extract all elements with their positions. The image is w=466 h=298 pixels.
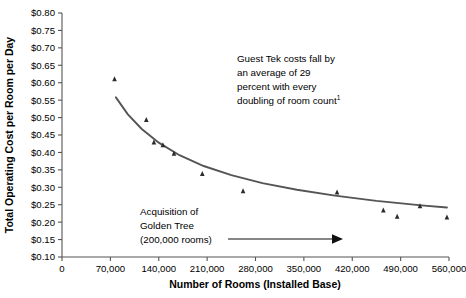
acquisition-line-1: Acquisition of [140,206,199,217]
y-tick-label: $0.10 [31,251,55,262]
y-axis-ticks: $0.10$0.15$0.20$0.25$0.30$0.35$0.40$0.45… [31,7,62,262]
acquisition-line-2: Golden Tree [140,220,194,231]
acquisition-arrow-head [332,234,343,244]
x-axis-ticks: 070,000140,000210,000280,000350,000420,0… [59,257,466,274]
chart-svg: Total Operating Cost per Room per Day Nu… [0,0,466,298]
y-tick-label: $0.75 [31,25,55,36]
annotation-line-2: an average of 29 [237,67,311,78]
y-tick-label: $0.50 [31,112,55,123]
y-tick-label: $0.35 [31,164,55,175]
y-tick-label: $0.60 [31,77,55,88]
data-point-marker [241,188,246,193]
y-tick-label: $0.30 [31,182,55,193]
y-tick-label: $0.80 [31,7,55,18]
trendline-curve [116,97,447,207]
data-point-marker [200,171,205,176]
x-axis-title: Number of Rooms (Installed Base) [169,278,341,290]
data-point-marker [381,208,386,213]
y-axis-title: Total Operating Cost per Room per Day [3,37,15,234]
data-point-marker [112,76,117,81]
chart-container: Total Operating Cost per Room per Day Nu… [0,0,466,298]
data-point-marker [445,215,450,220]
data-point-marker [144,117,149,122]
y-tick-label: $0.70 [31,42,55,53]
annotation-guest-tek: Guest Tek costs fall by an average of 29… [237,53,341,106]
x-tick-label: 280,000 [238,263,273,274]
x-tick-label: 0 [59,263,64,274]
acquisition-line-3: (200,000 rooms) [140,234,212,245]
annotation-acquisition: Acquisition of Golden Tree (200,000 room… [140,206,343,245]
data-point-marker [395,214,400,219]
y-tick-label: $0.40 [31,147,55,158]
y-tick-label: $0.15 [31,234,55,245]
x-tick-label: 140,000 [141,263,176,274]
annotation-line-1: Guest Tek costs fall by [237,53,335,64]
y-tick-label: $0.65 [31,60,55,71]
x-tick-label: 560,000 [432,263,466,274]
y-tick-label: $0.20 [31,217,55,228]
x-tick-label: 70,000 [96,263,125,274]
annotation-line-4-text: doubling of room count [237,95,337,106]
x-tick-label: 350,000 [287,263,322,274]
x-tick-label: 420,000 [335,263,370,274]
x-tick-label: 210,000 [190,263,225,274]
y-tick-label: $0.45 [31,129,55,140]
x-tick-label: 490,000 [383,263,418,274]
annotation-line-4: doubling of room count1 [237,94,341,106]
y-tick-label: $0.55 [31,95,55,106]
annotation-footnote-marker: 1 [337,94,341,101]
y-tick-label: $0.25 [31,199,55,210]
data-point-marker [335,189,340,194]
annotation-line-3: percent with every [237,81,317,92]
